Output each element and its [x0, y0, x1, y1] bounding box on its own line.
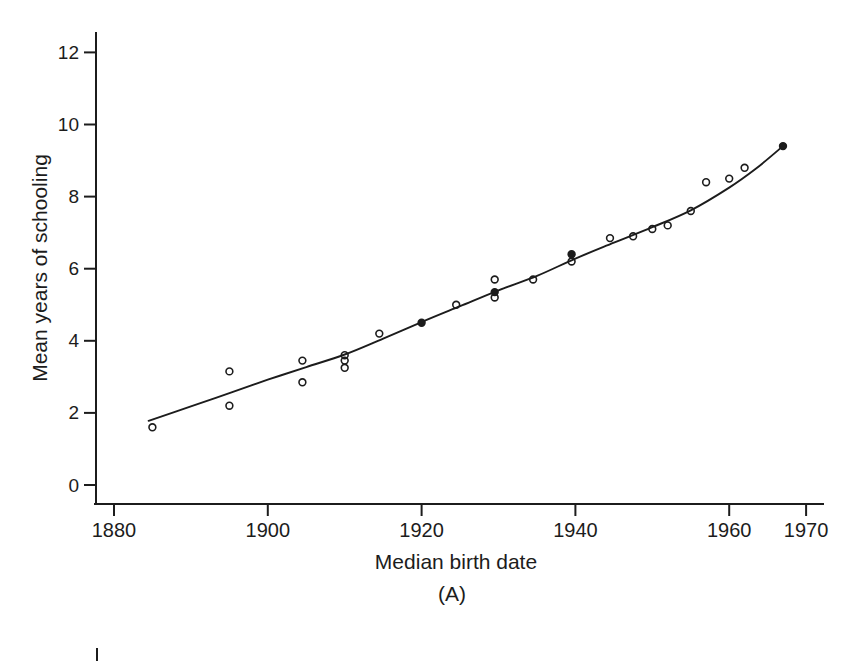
data-point	[226, 402, 233, 409]
y-axis-ticks: 024681012	[58, 42, 96, 496]
x-axis-ticks: 188019001920194019601970	[92, 504, 829, 541]
scanned-figure-page: 024681012 188019001920194019601970 Mean …	[0, 0, 858, 661]
y-tick-label: 8	[68, 186, 79, 207]
data-point	[703, 179, 710, 186]
data-point	[726, 175, 733, 182]
data-point	[341, 364, 348, 371]
data-point	[568, 251, 575, 258]
y-tick-label: 4	[68, 330, 79, 351]
data-point	[299, 379, 306, 386]
trend-line	[149, 146, 783, 421]
x-tick-label: 1970	[784, 519, 829, 541]
x-axis-title: Median birth date	[375, 550, 537, 573]
x-tick-label: 1920	[399, 519, 444, 541]
y-tick-label: 12	[58, 42, 79, 63]
data-point	[491, 276, 498, 283]
data-point	[664, 222, 671, 229]
data-point	[741, 164, 748, 171]
x-tick-label: 1940	[553, 519, 598, 541]
x-tick-label: 1900	[246, 519, 291, 541]
y-tick-label: 2	[68, 402, 79, 423]
data-point	[149, 424, 156, 431]
x-tick-label: 1960	[707, 519, 752, 541]
data-point	[418, 319, 425, 326]
y-tick-label: 6	[68, 258, 79, 279]
y-axis-title: Mean years of schooling	[28, 154, 51, 382]
panel-label: (A)	[438, 582, 466, 605]
data-point	[780, 143, 787, 150]
data-point	[376, 330, 383, 337]
data-point	[226, 368, 233, 375]
data-point	[299, 357, 306, 364]
y-tick-label: 0	[68, 475, 79, 496]
y-tick-label: 10	[58, 114, 79, 135]
schooling-scatter-chart: 024681012 188019001920194019601970 Mean …	[0, 0, 858, 661]
data-point	[607, 235, 614, 242]
x-tick-label: 1880	[92, 519, 137, 541]
